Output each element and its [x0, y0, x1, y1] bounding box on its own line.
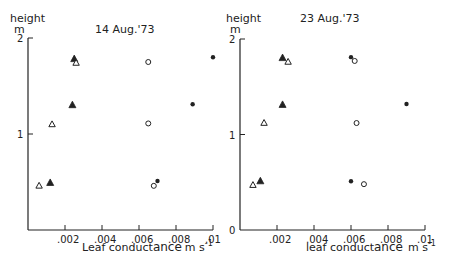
figure: height m 14 Aug.'73 .002.004.006.008.011… — [0, 0, 454, 265]
open-circle-marker — [361, 182, 366, 187]
x-axis-label: leaf conductancem s-1 — [306, 239, 436, 254]
panel-title: 14 Aug.'73 — [95, 23, 155, 36]
open-circle-marker — [146, 60, 151, 65]
open-triangle-marker — [250, 182, 256, 188]
filled-triangle-marker — [279, 101, 286, 108]
filled-circle-marker — [404, 102, 408, 106]
data-points — [36, 55, 215, 188]
open-circle-marker — [354, 121, 359, 126]
filled-triangle-marker — [69, 101, 76, 108]
y-tick-label: 0 — [229, 225, 235, 236]
ticks: .002.004.006.008.0112 — [17, 33, 221, 245]
ticks: .002.004.006.008.01012 — [229, 34, 433, 245]
axes — [240, 39, 425, 230]
filled-circle-marker — [349, 179, 353, 183]
filled-triangle-marker — [257, 177, 264, 184]
x-tick-label: .002 — [57, 234, 79, 245]
filled-circle-marker — [349, 55, 353, 59]
open-circle-marker — [352, 58, 357, 63]
panel-23-aug: height m 23 Aug.'73 .002.004.006.008.010… — [226, 12, 436, 254]
panel-14-aug: height m 14 Aug.'73 .002.004.006.008.011… — [10, 12, 221, 254]
open-triangle-marker — [49, 121, 55, 127]
y-tick-label: 2 — [17, 33, 23, 44]
filled-triangle-marker — [279, 54, 286, 61]
filled-circle-marker — [190, 102, 194, 106]
axes — [28, 38, 213, 230]
y-tick-label: 2 — [229, 34, 235, 45]
y-tick-label: 1 — [17, 129, 23, 140]
open-circle-marker — [146, 121, 151, 126]
filled-circle-marker — [155, 179, 159, 183]
y-tick-label: 1 — [229, 130, 235, 141]
panel-title: 23 Aug.'73 — [300, 12, 360, 25]
x-axis-label: Leaf conductancem s-1 — [82, 239, 213, 254]
open-triangle-marker — [261, 120, 267, 126]
data-points — [250, 54, 409, 187]
open-circle-marker — [151, 183, 156, 188]
x-tick-label: .002 — [269, 234, 291, 245]
open-triangle-marker — [36, 182, 42, 188]
filled-triangle-marker — [47, 179, 54, 186]
open-triangle-marker — [285, 58, 291, 64]
filled-circle-marker — [211, 55, 215, 59]
